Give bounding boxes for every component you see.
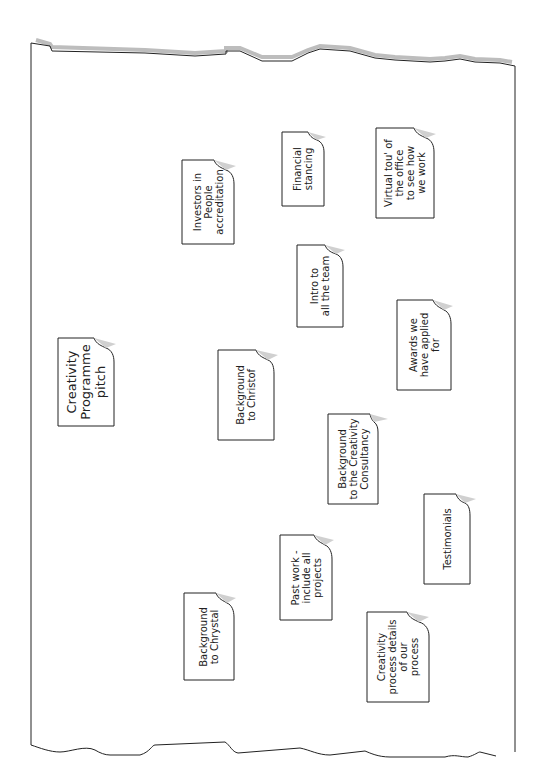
torn-top-edge-shadow: [36, 40, 512, 62]
note-text: Investors in People accreditation: [192, 169, 225, 235]
note-text: Intro to all the team: [309, 256, 331, 316]
note-text: Background to Christof: [235, 365, 257, 425]
note-creativity-programme-pitch[interactable]: Creativity Programme pitch: [58, 338, 114, 426]
note-investors-in-people[interactable]: Investors in People accreditation: [182, 160, 234, 244]
note-text: Past work - include all projects: [290, 550, 323, 605]
note-text: Background to Chrystal: [198, 607, 220, 667]
note-awards[interactable]: Awards we have applied for: [397, 300, 451, 390]
note-text: Background to the Creativity Consultancy: [337, 418, 370, 499]
note-text: Testimonials: [442, 508, 453, 570]
note-past-work[interactable]: Past work - include all projects: [280, 535, 332, 620]
note-text: Financial stancing: [292, 147, 314, 191]
note-virtual-tour[interactable]: Virtual tou' of the office to see how we…: [376, 128, 434, 218]
note-text: Awards we have applied for: [408, 313, 441, 378]
torn-top-edge: [31, 43, 515, 66]
note-text: Virtual tou' of the office to see how we…: [383, 139, 427, 207]
note-background-christof[interactable]: Background to Christof: [218, 350, 274, 440]
note-testimonials[interactable]: Testimonials: [424, 494, 470, 584]
note-creativity-process[interactable]: Creativity process details of our proces…: [367, 612, 429, 702]
note-text: Creativity Programme pitch: [65, 344, 108, 420]
note-financial-standing[interactable]: Financial stancing: [282, 132, 324, 206]
torn-bottom-edge: [31, 742, 496, 757]
note-background-chrystal[interactable]: Background to Chrystal: [184, 593, 234, 680]
note-intro-to-team[interactable]: Intro to all the team: [297, 245, 343, 327]
note-text: Creativity process details of our proces…: [376, 620, 420, 695]
note-background-consultancy[interactable]: Background to the Creativity Consultancy: [328, 414, 378, 504]
